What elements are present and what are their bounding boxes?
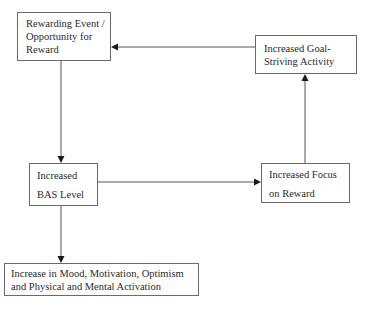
node-bas-level: Increased BAS Level	[29, 163, 98, 206]
node-label-line: BAS Level	[37, 185, 91, 204]
node-focus-on-reward: Increased Focus on Reward	[261, 163, 350, 203]
edge-focus-on-reward-to-goal-striving	[302, 74, 309, 163]
node-mood-activation: Increase in Mood, Motivation, Optimism a…	[4, 263, 199, 296]
bas-reward-cycle-diagram: Rewarding Event / Opportunity for Reward…	[0, 0, 366, 310]
arrowhead-right-icon	[254, 179, 261, 186]
node-label-line: Increased	[37, 166, 91, 185]
arrowhead-left-icon	[111, 44, 118, 51]
node-label-line: Increased Focus	[269, 165, 343, 184]
node-label-line: Rewarding Event /	[26, 17, 104, 30]
node-label-line: on Reward	[269, 184, 343, 203]
edge-goal-striving-to-rewarding-event	[111, 44, 255, 51]
node-label-line: Opportunity for	[26, 30, 104, 43]
arrowhead-down-icon	[58, 256, 65, 263]
node-label-line: Increase in Mood, Motivation, Optimism	[11, 267, 192, 280]
edge-bas-level-to-focus-on-reward	[97, 179, 261, 186]
node-label-line: Reward	[26, 43, 104, 56]
edge-bas-level-to-mood-activation	[58, 205, 65, 263]
arrowhead-down-icon	[58, 156, 65, 163]
node-label-line: Striving Activity	[264, 55, 350, 68]
node-goal-striving: Increased Goal- Striving Activity	[255, 35, 357, 74]
node-rewarding-event: Rewarding Event / Opportunity for Reward	[17, 12, 111, 61]
arrowhead-up-icon	[302, 74, 309, 81]
edge-rewarding-event-to-bas-level	[58, 60, 65, 163]
node-label-line: and Physical and Mental Activation	[11, 280, 192, 293]
node-label-line: Increased Goal-	[264, 42, 350, 55]
